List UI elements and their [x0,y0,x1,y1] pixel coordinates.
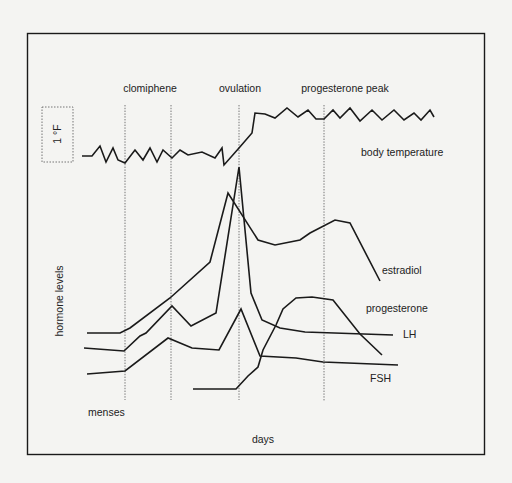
lh-curve [84,167,393,351]
estradiol-label: estradiol [382,264,422,276]
fsh-label: FSH [370,372,391,384]
y-axis-label: hormone levels [53,265,65,336]
body-temperature-label: body temperature [361,146,443,158]
progesterone-peak-label: progesterone peak [301,82,389,94]
menses-label: menses [88,406,125,418]
event-lines [125,105,324,401]
menstrual-cycle-diagram [0,0,512,483]
lh-label: LH [403,328,416,340]
frame-border [28,34,485,455]
ovulation-label: ovulation [219,82,261,94]
clomiphene-label: clomiphene [123,82,177,94]
progesterone-label: progesterone [366,302,428,314]
progesterone-curve [193,297,382,389]
x-axis-label: days [252,433,274,445]
estradiol-curve [87,193,380,333]
temperature-scale-label: 1 °F [51,124,63,143]
